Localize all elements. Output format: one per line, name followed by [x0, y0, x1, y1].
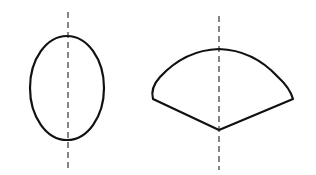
fan-figure	[152, 16, 293, 170]
diagram-canvas	[0, 0, 316, 175]
fan-outline	[152, 49, 293, 130]
ellipse-outline	[30, 36, 104, 140]
ellipse-figure	[30, 12, 104, 170]
